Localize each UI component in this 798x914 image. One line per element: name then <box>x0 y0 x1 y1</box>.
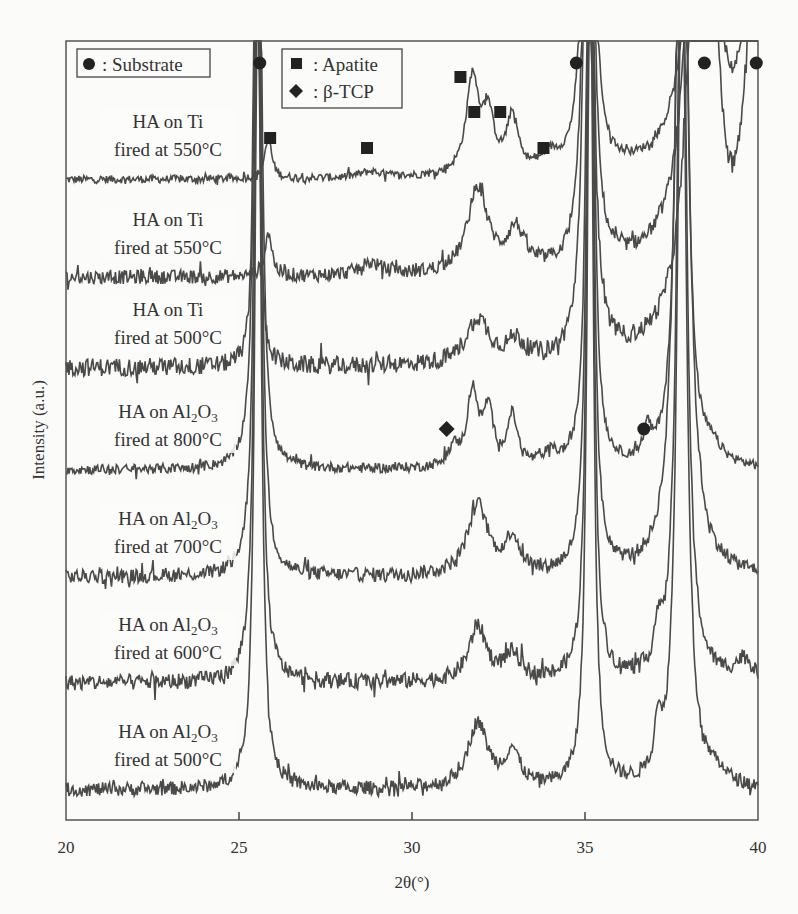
square-marker-icon <box>291 58 302 69</box>
trace-label-line1: HA on Al2O3 <box>118 508 218 532</box>
trace-label-line2: fired at 550°C <box>114 237 222 258</box>
apatite-marker-icon <box>361 142 373 154</box>
trace-label-line2: fired at 800°C <box>114 429 222 450</box>
substrate-marker-icon <box>750 57 763 70</box>
tcp-marker-icon <box>439 421 455 437</box>
x-axis-ticks: 2025303540 <box>58 812 767 857</box>
trace-label-line2: fired at 550°C <box>114 139 222 160</box>
y-axis-label: Intensity (a.u.) <box>29 380 48 480</box>
trace-label-line1: HA on Al2O3 <box>118 401 218 425</box>
apatite-marker-icon <box>468 106 480 118</box>
trace-label-line2: fired at 500°C <box>114 327 222 348</box>
legend-tcp-label: : β-TCP <box>313 81 374 102</box>
trace-label-line2: fired at 500°C <box>114 749 222 770</box>
substrate-marker-icon <box>570 57 583 70</box>
trace-label-line2: fired at 600°C <box>114 642 222 663</box>
trace-label-line1: HA on Al2O3 <box>118 721 218 745</box>
xrd-chart: 2025303540 HA on Tifired at 550°CHA on T… <box>0 0 798 914</box>
trace-label-line1: HA on Ti <box>133 111 204 132</box>
circle-marker-icon <box>83 58 95 70</box>
x-tick-label: 20 <box>58 838 75 857</box>
trace-label-line1: HA on Ti <box>133 209 204 230</box>
trace-label-line2: fired at 700°C <box>114 536 222 557</box>
x-axis-label: 2θ(°) <box>395 873 430 892</box>
legend-substrate: : Substrate <box>77 49 210 77</box>
legend-apatite-label: : Apatite <box>313 54 378 75</box>
apatite-marker-icon <box>537 142 549 154</box>
x-tick-label: 30 <box>404 838 421 857</box>
trace-label-line1: HA on Al2O3 <box>118 614 218 638</box>
x-tick-label: 35 <box>577 838 594 857</box>
apatite-marker-icon <box>264 132 276 144</box>
substrate-marker-icon <box>637 423 650 436</box>
legend-substrate-label: : Substrate <box>102 54 183 75</box>
x-tick-label: 40 <box>750 838 767 857</box>
apatite-marker-icon <box>494 106 506 118</box>
substrate-marker-icon <box>253 57 266 70</box>
trace-label-line1: HA on Ti <box>133 299 204 320</box>
legend-phases: : Apatite : β-TCP <box>282 49 402 108</box>
substrate-marker-icon <box>698 57 711 70</box>
apatite-marker-icon <box>454 71 466 83</box>
x-tick-label: 25 <box>231 838 248 857</box>
